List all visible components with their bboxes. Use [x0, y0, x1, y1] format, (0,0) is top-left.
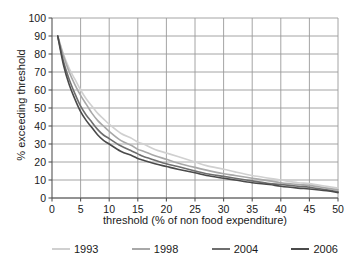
series-line-2006	[58, 36, 338, 193]
legend-swatch-2006	[291, 248, 309, 250]
tick-label-y-40: 40	[34, 120, 46, 132]
tick-label-x-5: 5	[78, 203, 84, 215]
tick-label-x-10: 10	[103, 203, 115, 215]
chart-plot-area: 05101520253035404550 0102030405060708090…	[0, 0, 357, 268]
tick-label-x-0: 0	[49, 203, 55, 215]
y-axis-title: % exceeding threshold	[14, 5, 28, 205]
tick-label-y-90: 90	[34, 30, 46, 42]
tick-label-x-40: 40	[275, 203, 287, 215]
legend-item-2006[interactable]: 2006	[291, 243, 337, 255]
legend-label-2006: 2006	[313, 243, 337, 255]
data-series	[58, 36, 338, 193]
tick-label-y-60: 60	[34, 84, 46, 96]
legend-item-1993[interactable]: 1993	[52, 243, 98, 255]
tick-label-y-10: 10	[34, 174, 46, 186]
legend-swatch-1998	[132, 248, 150, 250]
tick-marks	[49, 18, 339, 202]
tick-label-y-70: 70	[34, 66, 46, 78]
x-axis-title: threshold (% of non food expenditure)	[52, 214, 338, 226]
tick-labels-x: 05101520253035404550	[49, 203, 344, 215]
chart-figure: 05101520253035404550 0102030405060708090…	[0, 0, 357, 268]
tick-label-y-50: 50	[34, 102, 46, 114]
legend-label-1993: 1993	[74, 243, 98, 255]
tick-label-y-100: 100	[28, 12, 46, 24]
tick-label-x-50: 50	[332, 203, 344, 215]
tick-label-x-20: 20	[161, 203, 173, 215]
legend-label-2004: 2004	[234, 243, 258, 255]
legend-swatch-2004	[212, 248, 230, 250]
tick-label-x-25: 25	[189, 203, 201, 215]
legend-label-1998: 1998	[154, 243, 178, 255]
tick-label-x-15: 15	[132, 203, 144, 215]
chart-legend: 1993 1998 2004 2006	[52, 240, 338, 258]
tick-label-x-45: 45	[304, 203, 316, 215]
series-line-1993	[58, 36, 338, 188]
tick-labels-y: 0102030405060708090100	[28, 12, 46, 204]
tick-label-y-0: 0	[40, 192, 46, 204]
tick-label-x-30: 30	[218, 203, 230, 215]
tick-label-x-35: 35	[246, 203, 258, 215]
legend-swatch-1993	[52, 248, 70, 250]
tick-label-y-80: 80	[34, 48, 46, 60]
legend-item-1998[interactable]: 1998	[132, 243, 178, 255]
tick-label-y-20: 20	[34, 156, 46, 168]
tick-label-y-30: 30	[34, 138, 46, 150]
legend-item-2004[interactable]: 2004	[212, 243, 258, 255]
series-line-1998	[58, 36, 338, 190]
